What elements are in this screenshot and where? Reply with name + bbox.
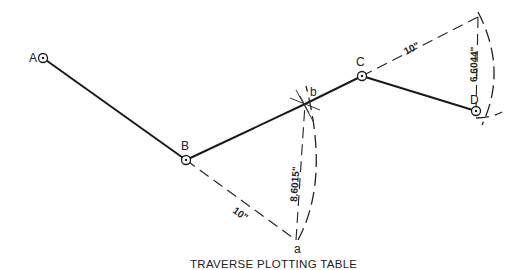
- station-b-label: B: [181, 139, 189, 153]
- chord-cd-dim: 10": [402, 40, 421, 57]
- chord-c-top: [362, 17, 478, 76]
- station-c-label: C: [356, 55, 365, 69]
- offset-ab-dim: 8.6015": [288, 166, 301, 202]
- point-b-label: b: [310, 85, 317, 99]
- arc-d: [478, 12, 494, 125]
- course-cd: [362, 76, 476, 111]
- traverse-diagram: A B C D b a 10" 8.6015" 10" 6.6044" TRAV…: [0, 0, 529, 270]
- point-a-label: a: [294, 242, 301, 256]
- station-c-marker: [358, 72, 367, 81]
- offset-dd-dim: 6.6044": [468, 46, 480, 82]
- diagram-title: TRAVERSE PLOTTING TABLE: [190, 258, 357, 270]
- station-d-marker: [472, 107, 481, 116]
- station-a-marker: [39, 54, 48, 63]
- course-bc-part1: [186, 104, 305, 160]
- chord-b-a: [186, 160, 296, 240]
- chord-ba-dim: 10": [231, 205, 251, 223]
- station-b-marker: [182, 156, 191, 165]
- station-d-label: D: [470, 93, 479, 107]
- station-a-label: A: [29, 51, 37, 65]
- course-ab: [43, 58, 186, 160]
